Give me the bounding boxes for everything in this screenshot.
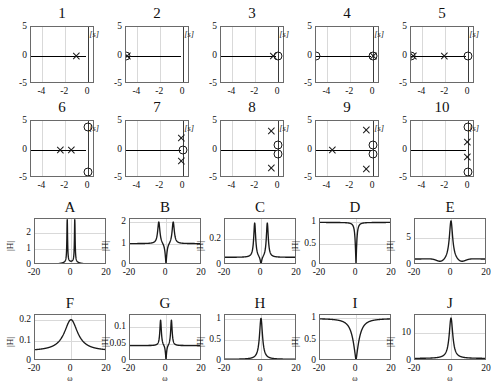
y-tick-label: -5 — [103, 172, 122, 182]
x-axis-label: ω — [129, 375, 201, 383]
y-tick-label: -5 — [388, 172, 407, 182]
y-tick-label: 5 — [293, 115, 312, 125]
x-tick-label: -2 — [345, 86, 353, 96]
y-tick-label: 1 — [289, 312, 316, 322]
panel-title: 10 — [410, 100, 474, 115]
x-tick-label: 0 — [85, 86, 90, 96]
gridline-vertical — [422, 121, 423, 176]
pole-marker — [410, 51, 418, 60]
x-tick-label: -2 — [60, 86, 68, 96]
real-axis — [221, 150, 276, 151]
plot-area — [315, 120, 379, 177]
magnitude-curve — [130, 219, 201, 264]
x-tick-label: -4 — [322, 180, 330, 190]
pole-marker — [440, 51, 449, 60]
magnitude-panel-H: H-2002000.51|H|ω — [194, 296, 300, 382]
pole-marker — [67, 145, 76, 154]
panel-title: J — [414, 296, 486, 311]
x-tick-label: -2 — [250, 180, 258, 190]
x-tick-label: -4 — [132, 86, 140, 96]
real-axis — [411, 150, 466, 151]
x-tick-label: -4 — [132, 180, 140, 190]
x-tick-label: 0 — [180, 86, 185, 96]
y-tick-label: 0 — [289, 355, 316, 365]
panel-title: 8 — [220, 100, 284, 115]
pole-marker — [177, 133, 186, 142]
gridline-vertical — [65, 27, 66, 82]
y-axis-label: |H| — [386, 337, 395, 347]
y-tick-label: -5 — [198, 78, 217, 88]
zero-marker — [274, 150, 283, 159]
zero-marker — [274, 140, 283, 149]
panel-title: I — [319, 296, 391, 311]
x-tick-label: 0 — [258, 363, 263, 373]
y-tick-label: -5 — [293, 172, 312, 182]
real-axis — [126, 56, 181, 57]
pole-marker — [463, 138, 472, 147]
magnitude-panel-A: A-20020012|H| — [4, 200, 110, 286]
s-plane-label: [s] — [374, 30, 384, 39]
panel-title: A — [34, 200, 106, 215]
x-tick-label: 0 — [163, 267, 168, 277]
y-tick-label: -5 — [388, 78, 407, 88]
pole-marker — [56, 145, 65, 154]
x-tick-label: 0 — [465, 180, 470, 190]
x-tick-label: -4 — [227, 180, 235, 190]
panel-title: 7 — [125, 100, 189, 115]
x-tick-label: -4 — [417, 86, 425, 96]
real-axis — [411, 56, 466, 57]
panel-title: 9 — [315, 100, 379, 115]
pole-marker — [463, 152, 472, 161]
gridline-vertical — [137, 121, 138, 176]
pole-zero-panel-4: 4[s]-4-2050-5 — [293, 6, 383, 97]
y-tick-label: 0 — [388, 144, 407, 154]
y-tick-label: 0.2 — [4, 314, 31, 324]
plot-area — [220, 26, 284, 83]
panel-title: 3 — [220, 6, 284, 21]
x-tick-label: 0 — [370, 86, 375, 96]
plot-area — [129, 218, 201, 264]
y-tick-label: 0 — [99, 355, 126, 365]
gridline-vertical — [255, 27, 256, 82]
x-tick-label: 0 — [275, 180, 280, 190]
panel-title: E — [414, 200, 486, 215]
pole-marker — [269, 51, 278, 60]
panel-title: 1 — [30, 6, 94, 21]
gridline-vertical — [350, 121, 351, 176]
plot-area — [30, 120, 94, 177]
pole-marker — [72, 51, 81, 60]
plot-area — [414, 314, 486, 360]
pole-marker — [267, 164, 276, 173]
magnitude-panel-B: B-20020012|H| — [99, 200, 205, 286]
y-tick-label: 10 — [384, 327, 411, 337]
pole-zero-panel-3: 3[s]-4-2050-5 — [198, 6, 288, 97]
plot-area — [315, 26, 379, 83]
s-plane-label: [s] — [184, 124, 194, 133]
plot-area — [410, 26, 474, 83]
magnitude-curve — [225, 315, 296, 360]
magnitude-panel-J: J-20020010|H|ω — [384, 296, 490, 382]
gridline-vertical — [137, 27, 138, 82]
pole-zero-panel-8: 8[s]-4-2050-5 — [198, 100, 288, 191]
gridline-vertical — [232, 121, 233, 176]
y-tick-label: -5 — [8, 172, 27, 182]
x-tick-label: 0 — [68, 267, 73, 277]
y-tick-label: 2 — [99, 216, 126, 226]
pole-zero-panel-2: 2[s]-4-2050-5 — [103, 6, 193, 97]
x-tick-label: -2 — [440, 86, 448, 96]
x-axis-label: ω — [224, 375, 296, 383]
panel-title: F — [34, 296, 106, 311]
y-tick-label: 5 — [103, 115, 122, 125]
x-tick-label: 0 — [180, 180, 185, 190]
magnitude-curve — [130, 315, 201, 360]
zero-marker — [369, 150, 378, 159]
magnitude-panel-F: F-2002000.10.2|H|ω — [4, 296, 110, 382]
y-tick-label: 5 — [8, 115, 27, 125]
magnitude-curve — [320, 219, 391, 264]
pole-marker — [125, 51, 132, 60]
y-axis-label: |H| — [291, 337, 300, 347]
x-tick-label: -4 — [227, 86, 235, 96]
gridline-vertical — [42, 121, 43, 176]
real-axis — [126, 150, 181, 151]
magnitude-curve — [225, 219, 296, 264]
